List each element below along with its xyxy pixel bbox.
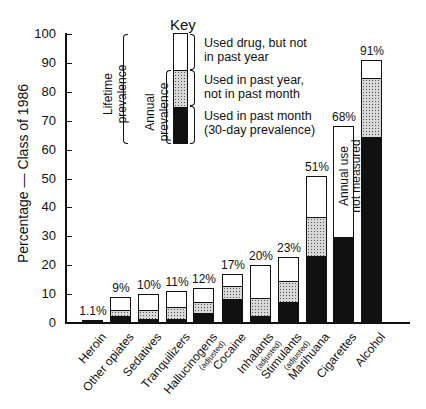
segment-not-past-year bbox=[307, 177, 326, 217]
segment-not-past-year bbox=[223, 275, 242, 287]
lifetime-prevalence-label: Lifetime prevalence bbox=[101, 54, 129, 134]
x-tick-label: Alcohol bbox=[352, 330, 388, 369]
legend-swatch-bar bbox=[173, 33, 188, 144]
segment-past-month bbox=[362, 137, 381, 322]
y-tick-label: 100 bbox=[30, 26, 56, 41]
legend-swatch-stipple bbox=[174, 70, 187, 107]
legend-swatch-black bbox=[174, 107, 187, 143]
y-tick-label: 90 bbox=[30, 55, 56, 70]
legend-entry-past-month: Used in past month (30-day prevalence) bbox=[204, 109, 315, 137]
segment-not-past-year bbox=[139, 295, 158, 309]
lifetime-percent-label: 23% bbox=[271, 241, 307, 255]
y-tick-mark bbox=[66, 294, 72, 295]
segment-past-month bbox=[279, 302, 298, 322]
y-tick-mark bbox=[66, 92, 72, 93]
segment-past-year bbox=[111, 310, 130, 317]
annual-prevalence-label: Annual prevalence bbox=[143, 72, 171, 152]
legend-brace bbox=[190, 34, 195, 70]
y-tick-label: 20 bbox=[30, 257, 56, 272]
lifetime-percent-label: 1.1% bbox=[75, 304, 111, 318]
segment-past-year bbox=[223, 286, 242, 299]
legend-brace bbox=[190, 70, 195, 106]
bar-sedatives bbox=[138, 294, 159, 323]
y-tick-mark bbox=[66, 34, 72, 35]
segment-past-month bbox=[223, 299, 242, 322]
segment-past-year bbox=[307, 217, 326, 256]
legend-title: Key bbox=[170, 16, 196, 33]
y-tick-mark bbox=[66, 121, 72, 122]
segment-not-past-year bbox=[111, 298, 130, 310]
y-tick-label: 40 bbox=[30, 199, 56, 214]
segment-past-year bbox=[251, 298, 270, 316]
legend-text: Annual prevalence bbox=[143, 79, 171, 145]
y-tick-mark bbox=[66, 207, 72, 208]
bar-tranquilizers bbox=[166, 291, 187, 323]
segment-past-month bbox=[307, 256, 326, 322]
legend-text: Lifetime prevalence bbox=[101, 59, 129, 129]
y-tick-label: 60 bbox=[30, 142, 56, 157]
segment-past-year bbox=[279, 281, 298, 302]
bar-marijuana bbox=[306, 176, 327, 323]
legend-text: Used in past year, bbox=[204, 73, 304, 87]
segment-past-year bbox=[362, 78, 381, 137]
segment-past-month bbox=[194, 313, 213, 322]
legend-brace bbox=[190, 106, 195, 144]
segment-past-month bbox=[251, 316, 270, 322]
bar-alcohol bbox=[361, 60, 382, 323]
segment-past-year bbox=[139, 310, 158, 320]
y-tick-label: 10 bbox=[30, 286, 56, 301]
segment-past-month bbox=[139, 319, 158, 322]
bar-cocaine bbox=[222, 274, 243, 323]
legend-text: (30-day prevalence) bbox=[204, 123, 315, 137]
y-tick-mark bbox=[66, 265, 72, 266]
segment-not-past-year bbox=[251, 266, 270, 298]
lifetime-percent-label: 12% bbox=[186, 272, 222, 286]
legend-text: Used in past month bbox=[204, 109, 315, 123]
segment-past-month bbox=[334, 237, 353, 322]
segment-not-past-year bbox=[279, 258, 298, 281]
legend-entry-past-year: Used in past year, not in past month bbox=[204, 73, 304, 101]
y-tick-label: 0 bbox=[30, 315, 56, 330]
segment-not-past-year bbox=[194, 289, 213, 302]
y-tick-mark bbox=[66, 63, 72, 64]
lifetime-percent-label: 68% bbox=[326, 110, 362, 124]
stacked-bar-chart: Percentage — Class of 1986 0102030405060… bbox=[0, 0, 426, 409]
y-axis-label: Percentage — Class of 1986 bbox=[15, 93, 31, 263]
y-tick-mark bbox=[66, 179, 72, 180]
segment-not-past-year bbox=[362, 61, 381, 78]
legend-text: Used drug, but not bbox=[204, 36, 307, 50]
segment-past-month bbox=[167, 319, 186, 322]
legend-text: in past year bbox=[204, 50, 307, 64]
y-tick-label: 50 bbox=[30, 171, 56, 186]
y-tick-mark bbox=[66, 323, 72, 324]
annotation-text: not measured bbox=[350, 126, 362, 226]
legend-swatch-white bbox=[174, 34, 187, 70]
bar-inhalants-adjusted- bbox=[250, 265, 271, 323]
bar-heroin bbox=[82, 320, 103, 323]
y-tick-label: 30 bbox=[30, 228, 56, 243]
bar-stimulants-adjusted- bbox=[278, 257, 299, 323]
cigarettes-annotation: Annual use not measured bbox=[338, 126, 362, 226]
y-tick-mark bbox=[66, 150, 72, 151]
y-tick-label: 70 bbox=[30, 113, 56, 128]
segment-not-past-year bbox=[167, 292, 186, 306]
legend-text: not in past month bbox=[204, 87, 304, 101]
bar-other-opiates bbox=[110, 297, 131, 323]
segment-past-year bbox=[167, 307, 186, 320]
bar-hallucinogens-adjusted- bbox=[193, 288, 214, 323]
y-tick-label: 80 bbox=[30, 84, 56, 99]
legend-entry-not-past-year: Used drug, but not in past year bbox=[204, 36, 307, 64]
segment-past-month bbox=[111, 316, 130, 322]
y-tick-mark bbox=[66, 236, 72, 237]
segment-past-year bbox=[194, 302, 213, 313]
lifetime-percent-label: 91% bbox=[354, 44, 390, 58]
lifetime-percent-label: 51% bbox=[299, 160, 335, 174]
